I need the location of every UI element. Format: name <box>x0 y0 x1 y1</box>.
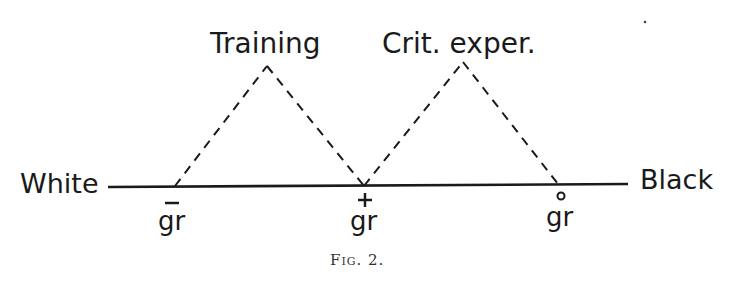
speck <box>644 21 647 24</box>
point-label-gr-bar: gr <box>158 206 185 236</box>
figure-caption: Fig. 2. <box>330 251 384 269</box>
axis-right-label: Black <box>640 164 713 195</box>
circle-mark <box>558 193 565 200</box>
training-right-edge <box>267 66 364 186</box>
axis-left-label: White <box>20 168 99 199</box>
training-left-edge <box>175 66 267 186</box>
peak-label-training: Training <box>210 27 320 60</box>
figure: White Black Training Crit. exper. gr gr … <box>0 0 733 281</box>
diagram-lines <box>0 0 733 281</box>
point-label-gr-plus: gr <box>350 206 377 236</box>
peak-label-crit-exper: Crit. exper. <box>382 27 536 60</box>
crit-right-edge <box>463 62 558 184</box>
point-label-gr-circle: gr <box>546 202 573 232</box>
crit-left-edge <box>364 62 463 186</box>
baseline <box>108 184 628 187</box>
